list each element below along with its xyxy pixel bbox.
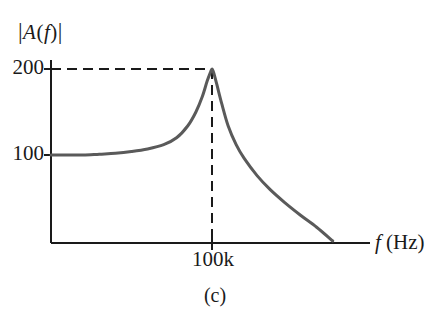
x-axis-title-unit: (Hz) [386, 230, 424, 254]
figure-container: |A(f)| 200 100 100k f (Hz) (c) [0, 0, 445, 320]
y-axis-title-close-bar: | [58, 19, 63, 44]
x-tick-label-100k: 100k [172, 249, 254, 270]
x-axis-title: f (Hz) [375, 232, 425, 253]
y-axis-title-a: A [23, 20, 36, 44]
chart-plot-area [0, 0, 445, 320]
y-axis-title-open-paren: ( [36, 20, 44, 44]
figure-caption: (c) [175, 285, 255, 305]
y-tick-label-200: 200 [0, 57, 44, 78]
y-axis-title: |A(f)| [18, 20, 63, 43]
y-tick-label-100: 100 [0, 143, 44, 164]
y-axis-title-close-paren: ) [50, 20, 58, 44]
response-curve [51, 69, 333, 241]
